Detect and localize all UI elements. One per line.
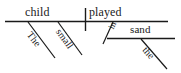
sentence-diagram: child played sand The small in the xyxy=(0,0,181,73)
word-verb-played: played xyxy=(89,6,122,18)
word-object-sand: sand xyxy=(130,24,151,35)
word-subject-child: child xyxy=(25,6,50,18)
